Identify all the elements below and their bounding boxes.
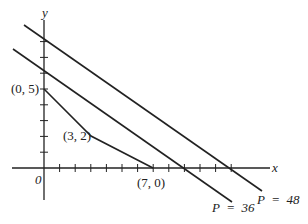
origin-label: 0 xyxy=(35,172,42,187)
vertex-label-7-0: (7, 0) xyxy=(137,175,165,190)
diagram-canvas: y x 0 (0, 5) (3, 2) (7, 0) P = 36 P = 48 xyxy=(0,0,308,224)
objective-line-p36 xyxy=(13,49,232,202)
vertex-label-3-2: (3, 2) xyxy=(63,128,91,143)
x-axis-label: x xyxy=(271,160,278,175)
objective-label-p48: P = 48 xyxy=(256,192,300,207)
feasible-region-boundary xyxy=(44,89,153,168)
y-axis-label: y xyxy=(40,5,48,20)
objective-label-p36: P = 36 xyxy=(211,200,255,215)
vertex-label-0-5: (0, 5) xyxy=(11,81,39,96)
